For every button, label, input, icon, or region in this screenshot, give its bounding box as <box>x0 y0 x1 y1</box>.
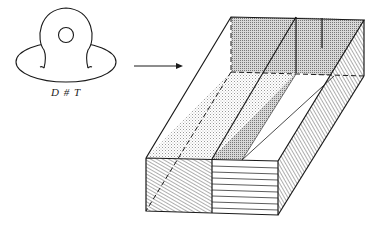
torus-figure <box>16 8 116 82</box>
torus-label: D # T <box>36 86 96 98</box>
box-figure <box>146 17 364 215</box>
diagram-canvas <box>0 0 376 232</box>
arrow-icon <box>134 63 183 69</box>
